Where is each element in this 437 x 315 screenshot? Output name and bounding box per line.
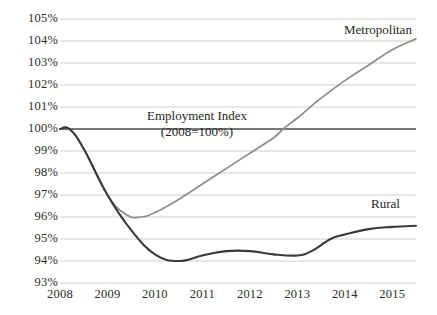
series-label-metropolitan: Metropolitan [344, 22, 412, 38]
y-tick-label: 100% [6, 122, 58, 135]
chart-title-line-1: Employment Index [122, 108, 272, 124]
series-line-rural [60, 127, 416, 261]
y-tick-label: 98% [6, 166, 58, 179]
chart-title-annotation: Employment Index (2008=100%) [122, 108, 272, 141]
y-tick-label: 102% [6, 78, 58, 91]
employment-index-chart: 93%94%95%96%97%98%99%100%101%102%103%104… [0, 0, 437, 315]
y-tick-label: 97% [6, 188, 58, 201]
y-tick-label: 96% [6, 210, 58, 223]
y-tick-label: 105% [6, 12, 58, 25]
series-lines [60, 39, 416, 261]
chart-title-line-2: (2008=100%) [122, 124, 272, 140]
gridlines [60, 19, 416, 283]
y-tick-label: 101% [6, 100, 58, 113]
x-tick-label: 2015 [362, 288, 422, 301]
y-tick-label: 103% [6, 56, 58, 69]
y-tick-label: 104% [6, 34, 58, 47]
y-tick-label: 95% [6, 232, 58, 245]
series-label-rural: Rural [371, 196, 400, 212]
chart-plot-area [0, 0, 437, 315]
y-tick-label: 94% [6, 254, 58, 267]
y-tick-label: 99% [6, 144, 58, 157]
